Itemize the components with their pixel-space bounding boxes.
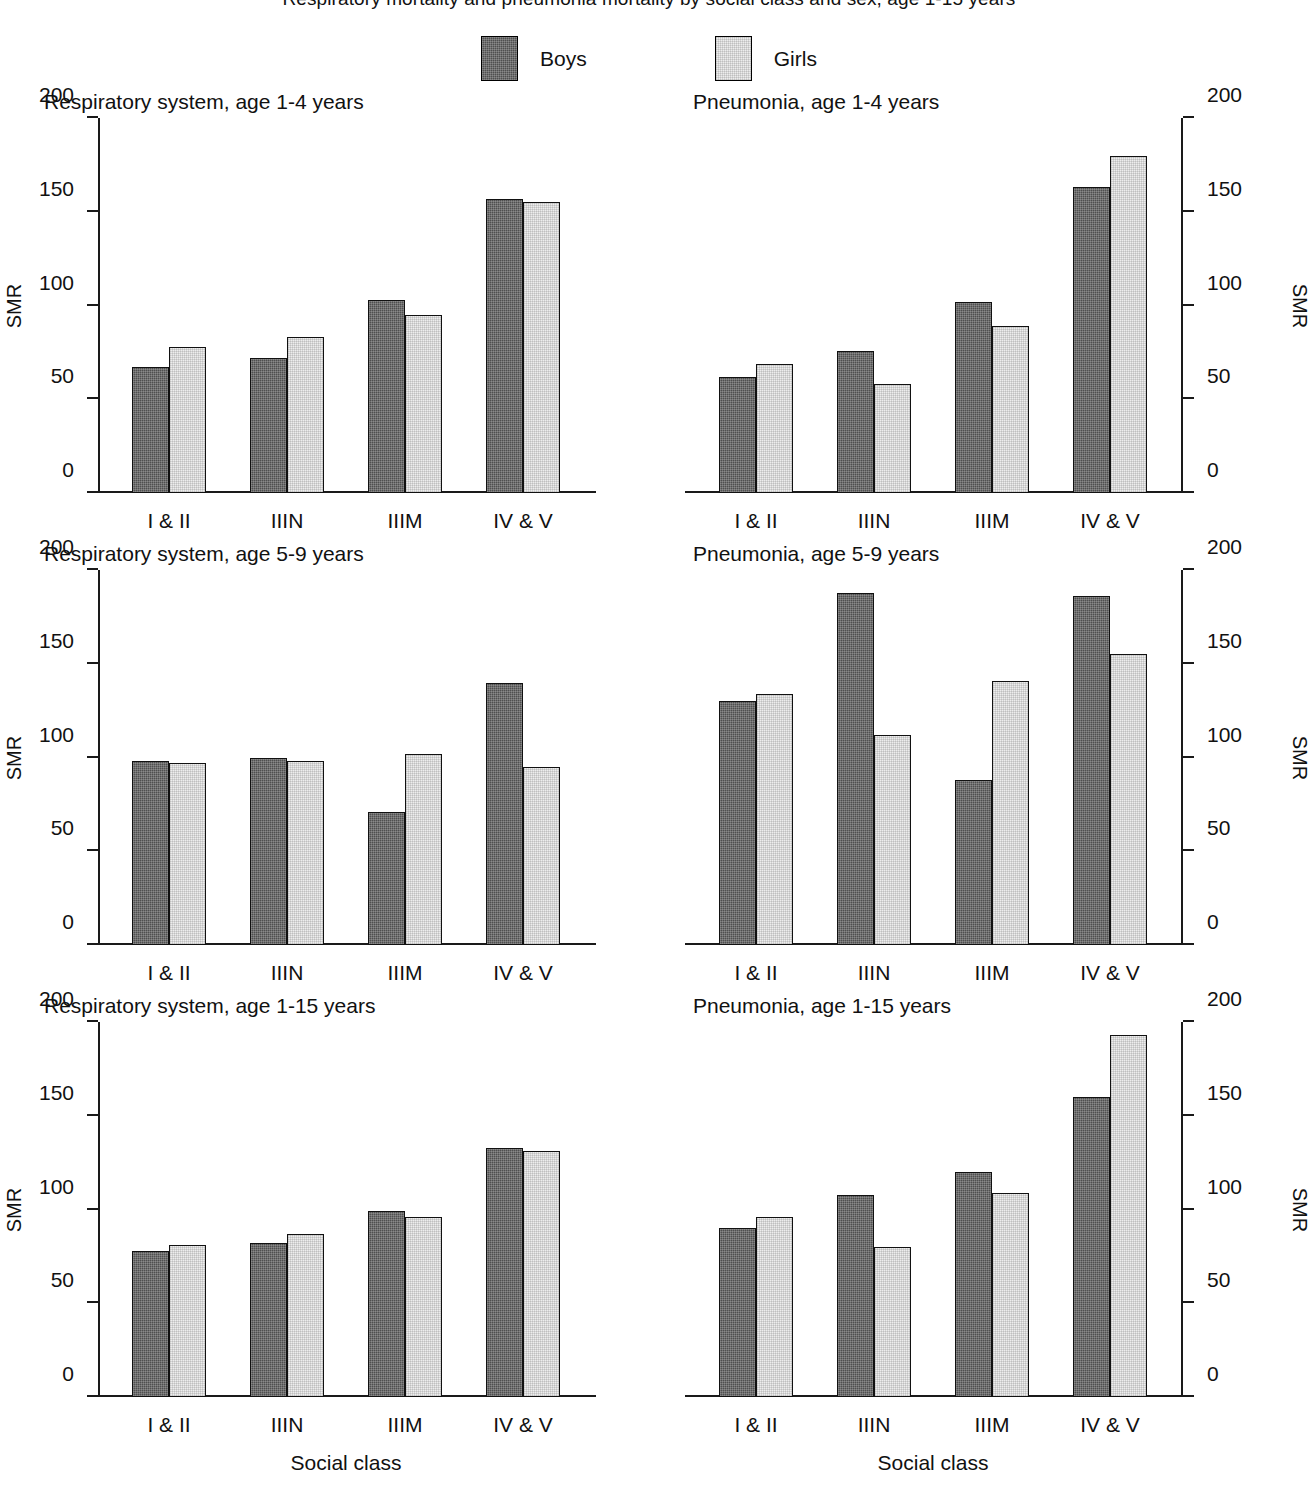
bar-group: I & II	[132, 1022, 205, 1397]
legend: Boys Girls	[0, 36, 1298, 81]
x-axis-tick-label: I & II	[734, 509, 777, 533]
x-axis-tick-label: IIIM	[974, 961, 1009, 985]
legend-label-girls: Girls	[774, 47, 817, 71]
bar-boys	[250, 758, 287, 946]
x-axis-tick-label: IIIN	[271, 961, 304, 985]
y-axis: 050100150200	[1181, 1022, 1183, 1397]
y-axis-tick-label: 100	[39, 271, 74, 295]
bar-boys	[132, 761, 169, 945]
bar-boys	[955, 1172, 992, 1397]
y-axis-tick-label: 150	[39, 1081, 74, 1105]
y-axis-tick	[87, 210, 98, 212]
bar-girls	[756, 364, 793, 493]
bar-girls	[523, 767, 560, 945]
y-axis-tick	[1183, 397, 1194, 399]
y-axis-tick	[87, 1208, 98, 1210]
y-axis-tick	[87, 304, 98, 306]
bar-group: I & II	[132, 570, 205, 945]
bar-group: IIIM	[955, 118, 1028, 493]
bar-group: IIIM	[955, 1022, 1028, 1397]
y-axis-tick	[87, 116, 98, 118]
x-axis-tick-label: IV & V	[493, 1413, 553, 1437]
y-axis-tick-label: 200	[1207, 83, 1242, 107]
bar-girls	[405, 754, 442, 945]
y-axis-tick	[1183, 1020, 1194, 1022]
panel-title: Respiratory system, age 1-15 years	[44, 994, 375, 1018]
y-axis: 050100150200	[98, 1022, 100, 1397]
bar-boys	[1073, 596, 1110, 945]
y-axis-tick-label: 200	[39, 83, 74, 107]
bar-boys	[368, 300, 405, 493]
bar-groups: I & IIIIINIIIMIV & V	[697, 118, 1169, 493]
y-axis-tick-label: 100	[1207, 1175, 1242, 1199]
y-axis-tick-label: 150	[1207, 177, 1242, 201]
y-axis-title: SMR	[3, 735, 26, 779]
legend-item-boys: Boys	[481, 36, 587, 81]
x-axis-tick-label: IIIN	[271, 1413, 304, 1437]
bar-girls	[992, 681, 1029, 945]
bar-girls	[523, 1151, 560, 1397]
plot-area: 050100150200SMRI & IIIIINIIIMIV & V	[110, 118, 582, 493]
bar-girls	[874, 1247, 911, 1397]
y-axis: 050100150200	[1181, 118, 1183, 493]
x-axis-tick-label: IV & V	[493, 509, 553, 533]
y-axis-tick	[87, 1301, 98, 1303]
bar-groups: I & IIIIINIIIMIV & V	[110, 1022, 582, 1397]
bar-group: IV & V	[486, 118, 559, 493]
plot-area: 050100150200SMRI & IIIIINIIIMIV & V	[110, 570, 582, 945]
y-axis-tick-label: 0	[1207, 458, 1219, 482]
bar-group: IIIM	[955, 570, 1028, 945]
y-axis-tick	[1183, 849, 1194, 851]
bar-girls	[405, 315, 442, 493]
y-axis-tick-label: 50	[51, 364, 74, 388]
bar-girls	[756, 694, 793, 945]
y-axis-tick	[1183, 756, 1194, 758]
figure-title: Respiratory mortality and pneumonia mort…	[0, 0, 1298, 10]
chart-panel-1: Respiratory system, age 1-4 years0501001…	[0, 96, 649, 551]
bar-boys	[1073, 187, 1110, 493]
y-axis-tick-label: 150	[39, 177, 74, 201]
y-axis-tick-label: 0	[1207, 910, 1219, 934]
y-axis-tick	[87, 756, 98, 758]
bar-girls	[992, 326, 1029, 493]
bar-boys	[486, 683, 523, 946]
bar-group: IIIN	[250, 118, 323, 493]
bar-girls	[405, 1217, 442, 1397]
y-axis-tick-label: 50	[51, 816, 74, 840]
y-axis-tick-label: 0	[62, 910, 74, 934]
x-axis-tick-label: IV & V	[493, 961, 553, 985]
y-axis-tick	[1183, 116, 1194, 118]
y-axis-tick	[87, 662, 98, 664]
legend-swatch-girls-icon	[715, 36, 752, 81]
y-axis-title: SMR	[3, 283, 26, 327]
y-axis-tick-label: 100	[39, 1175, 74, 1199]
bar-girls	[523, 202, 560, 493]
x-axis-tick-label: IIIN	[858, 1413, 891, 1437]
bar-group: IIIN	[837, 570, 910, 945]
y-axis-tick	[87, 1114, 98, 1116]
y-axis-tick	[1183, 1395, 1194, 1397]
bar-group: IIIM	[368, 570, 441, 945]
plot-area: 050100150200SMRI & IIIIINIIIMIV & VSocia…	[110, 1022, 582, 1397]
y-axis-tick-label: 100	[1207, 271, 1242, 295]
bar-group: I & II	[719, 1022, 792, 1397]
chart-panel-2: Pneumonia, age 1-4 years050100150200SMRI…	[649, 96, 1298, 551]
bar-groups: I & IIIIINIIIMIV & V	[110, 570, 582, 945]
y-axis-tick	[1183, 568, 1194, 570]
bar-group: IIIN	[837, 118, 910, 493]
y-axis-tick-label: 0	[62, 1362, 74, 1386]
bar-girls	[874, 384, 911, 493]
chart-panel-6: Pneumonia, age 1-15 years050100150200SMR…	[649, 1000, 1298, 1455]
x-axis-tick-label: IV & V	[1080, 1413, 1140, 1437]
y-axis-tick	[87, 491, 98, 493]
bar-group: IIIM	[368, 118, 441, 493]
bar-group: IIIM	[368, 1022, 441, 1397]
y-axis-tick-label: 200	[1207, 987, 1242, 1011]
legend-item-girls: Girls	[715, 36, 817, 81]
bar-girls	[1110, 1035, 1147, 1397]
panel-title: Respiratory system, age 5-9 years	[44, 542, 364, 566]
bar-group: I & II	[719, 118, 792, 493]
y-axis-tick-label: 100	[1207, 723, 1242, 747]
y-axis-tick	[87, 568, 98, 570]
bar-boys	[837, 1195, 874, 1398]
